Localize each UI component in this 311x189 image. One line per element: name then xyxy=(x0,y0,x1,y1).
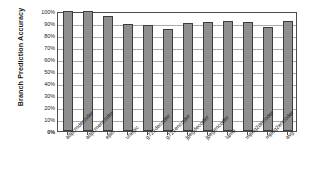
bar xyxy=(143,25,154,131)
chart-figure: Branch Prediction Accuracy 100%90%80%70%… xyxy=(0,0,311,189)
y-axis-tick-label: 100% xyxy=(31,9,55,15)
y-axis-tick-label: 60% xyxy=(31,57,55,63)
y-axis-tick-label: 80% xyxy=(31,33,55,39)
y-axis-tick-label: 20% xyxy=(31,105,55,111)
bar xyxy=(63,11,74,131)
y-axis-tick-label: 10% xyxy=(31,117,55,123)
y-axis-tick-label: 70% xyxy=(31,45,55,51)
y-axis-tick-label: 50% xyxy=(31,69,55,75)
y-axis-tick-label: 0% xyxy=(31,129,55,135)
y-axis-title: Branch Prediction Accuracy xyxy=(14,0,28,122)
bar xyxy=(243,22,254,131)
bar xyxy=(123,24,134,131)
y-axis-tick-label: 40% xyxy=(31,81,55,87)
y-axis-tick-label: 90% xyxy=(31,21,55,27)
y-axis-tick-label: 30% xyxy=(31,93,55,99)
